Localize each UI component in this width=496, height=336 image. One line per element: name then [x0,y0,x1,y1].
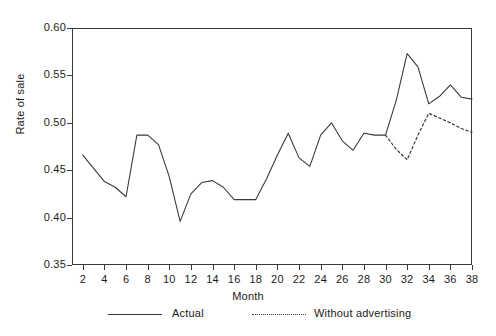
x-tick-mark [342,265,343,270]
x-tick-mark [299,265,300,270]
legend-swatch-without-advertising [252,314,306,315]
x-tick-mark [364,265,365,270]
y-tick-mark [67,28,72,29]
x-tick-mark [472,265,473,270]
chart-canvas [0,0,496,336]
x-tick-mark [407,265,408,270]
y-tick-label: 0.40 [22,211,66,223]
x-tick-mark [191,265,192,270]
chart-figure: 0.350.400.450.500.550.60 246810121416182… [0,0,496,336]
y-tick-label: 0.60 [22,21,66,33]
x-tick-mark [83,265,84,270]
x-tick-mark [450,265,451,270]
y-tick-label: 0.35 [22,258,66,270]
x-tick-mark [169,265,170,270]
legend-label-without-advertising: Without advertising [314,307,411,319]
x-tick-mark [213,265,214,270]
x-tick-mark [386,265,387,270]
series-line-actual [83,54,472,222]
x-tick-label: 38 [459,273,485,285]
y-tick-mark [67,123,72,124]
x-tick-mark [429,265,430,270]
legend-label-actual: Actual [172,307,204,319]
legend-swatch-actual [108,314,162,315]
y-tick-mark [67,75,72,76]
y-tick-label: 0.45 [22,163,66,175]
y-tick-label: 0.50 [22,116,66,128]
x-tick-mark [277,265,278,270]
x-tick-mark [104,265,105,270]
x-tick-mark [126,265,127,270]
x-tick-mark [321,265,322,270]
y-tick-mark [67,218,72,219]
y-axis-label: Rate of sale [14,54,26,154]
x-tick-mark [148,265,149,270]
y-tick-mark [67,265,72,266]
y-tick-mark [67,170,72,171]
x-tick-mark [256,265,257,270]
x-tick-mark [234,265,235,270]
chart-legend: Actual Without advertising [0,303,496,327]
series-line-without-advertising [386,113,472,159]
x-axis-label: Month [0,290,496,302]
y-tick-label: 0.55 [22,68,66,80]
